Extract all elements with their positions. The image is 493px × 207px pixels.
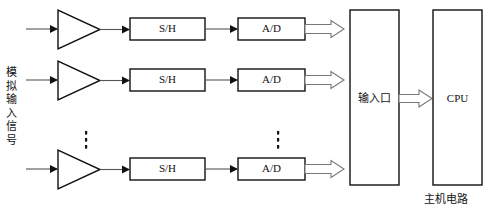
channel-2-to-port-block-arrow — [305, 72, 344, 89]
analog-label-char-1: 模 — [2, 66, 20, 80]
channel-2-input-arrowhead — [50, 76, 58, 84]
channel-n-amplifier — [58, 150, 100, 189]
channel-2-ad-converter-label: A/D — [262, 73, 281, 85]
channel-n-input-arrowhead — [50, 165, 58, 173]
channel-2-sh-to-ad-arrowhead — [230, 76, 238, 84]
ad-converter-ellipsis-icon — [277, 131, 279, 149]
port-to-cpu-block-arrow — [399, 90, 432, 107]
analog-label-char-5: 信 — [2, 120, 20, 134]
channel-1-amplifier — [58, 10, 100, 49]
analog-label-char-2: 拟 — [2, 80, 20, 94]
channel-n-group: S/H A/D — [26, 150, 344, 189]
diagram-canvas: S/H A/D S/H A/D — [0, 0, 493, 207]
amplifier-ellipsis-icon — [85, 131, 87, 149]
channel-1-group: S/H A/D — [26, 10, 344, 49]
analog-label-char-3: 输 — [2, 93, 20, 107]
channel-1-input-arrowhead — [50, 25, 58, 33]
analog-label-char-4: 入 — [2, 107, 20, 121]
channel-n-sh-to-ad-arrowhead — [230, 165, 238, 173]
host-circuit-caption: 主机电路 — [424, 190, 468, 206]
channel-1-amp-to-sh-arrowhead — [122, 26, 130, 34]
analog-label-char-6: 号 — [2, 134, 20, 148]
channel-1-to-port-block-arrow — [305, 21, 344, 38]
analog-input-signal-label: 模 拟 输 入 信 号 — [2, 66, 20, 147]
input-port-label: 输入口 — [358, 91, 391, 105]
cpu-label: CPU — [447, 92, 468, 104]
channel-1-sh-to-ad-arrowhead — [230, 25, 238, 33]
channel-2-amp-to-sh-arrowhead — [122, 77, 130, 85]
channel-n-sample-hold-label: S/H — [159, 162, 176, 174]
channel-2-amplifier — [58, 61, 100, 100]
channel-n-to-port-block-arrow — [305, 161, 344, 178]
channel-1-sample-hold-label: S/H — [159, 22, 176, 34]
channel-2-sample-hold-label: S/H — [159, 73, 176, 85]
channel-2-group: S/H A/D — [26, 61, 344, 100]
block-diagram: S/H A/D S/H A/D — [0, 0, 493, 207]
channel-1-ad-converter-label: A/D — [262, 22, 281, 34]
channel-n-amp-to-sh-arrowhead — [122, 166, 130, 174]
channel-n-ad-converter-label: A/D — [262, 162, 281, 174]
